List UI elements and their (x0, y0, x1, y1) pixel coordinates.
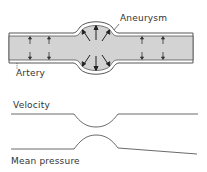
aneurysm-label: Aneurysm (120, 14, 167, 23)
mean-pressure-curve (11, 135, 197, 154)
mean-pressure-label: Mean pressure (11, 157, 80, 166)
aneurysm-leader (114, 24, 119, 30)
artery-label: Artery (16, 69, 45, 78)
velocity-label: Velocity (13, 101, 50, 110)
velocity-curve (11, 114, 198, 127)
artery-vessel (9, 22, 193, 75)
aneurysm-diagram (0, 0, 207, 172)
